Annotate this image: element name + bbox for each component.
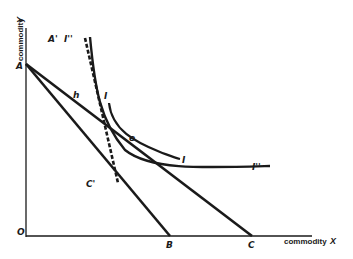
- label-i-double-prime-top: I'': [64, 34, 73, 44]
- label-h: h: [73, 90, 79, 100]
- label-c-prime: C': [86, 179, 95, 189]
- label-a: A: [15, 61, 23, 71]
- label-origin: O: [17, 227, 25, 237]
- label-a-prime: A': [47, 34, 58, 44]
- y-axis-var: Y: [15, 16, 25, 23]
- label-i-double-prime-end: I'': [252, 162, 261, 172]
- label-c: C: [248, 240, 255, 250]
- label-b: B: [166, 240, 173, 250]
- label-i-end: I: [182, 155, 186, 165]
- x-axis-var: X: [329, 236, 337, 246]
- y-axis-label: commodity: [16, 18, 25, 61]
- indifference-curve-i: [109, 103, 180, 159]
- label-e: e: [129, 133, 135, 143]
- x-axis-label: commodity: [284, 237, 327, 246]
- indifference-diagram: A A' I'' h I e I C' I'' O B C commodity …: [0, 0, 353, 259]
- label-i-top: I: [104, 91, 108, 101]
- indifference-curve-i-double-prime: [90, 37, 270, 167]
- budget-line-ac: [26, 64, 252, 236]
